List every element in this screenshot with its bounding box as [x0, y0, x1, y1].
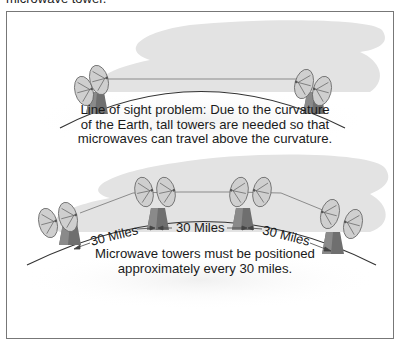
bottom-description-line-1: Microwave towers must be positioned: [85, 247, 325, 262]
top-description-line-2: of the Earth, tall towers are needed so …: [60, 118, 350, 133]
bottom-description-line-2: approximately every 30 miles.: [85, 262, 325, 277]
top-description-line-3: microwaves can travel above the curvatur…: [60, 132, 350, 147]
top-description: Line of sight problem: Due to the curvat…: [60, 103, 350, 147]
bottom-description: Microwave towers must be positioned appr…: [85, 247, 325, 276]
top-description-line-1: Line of sight problem: Due to the curvat…: [60, 103, 350, 118]
distance-label-2: 30 Miles: [176, 220, 224, 235]
microwave-diagram-illustration: [0, 0, 401, 342]
